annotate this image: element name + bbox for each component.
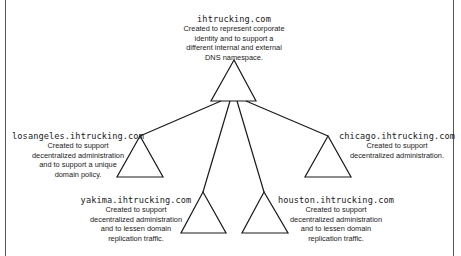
edge-root-yakima: [203, 101, 230, 192]
description-line: Created to support: [278, 205, 394, 215]
chicago-domain-name: chicago.ihtrucking.com: [339, 131, 455, 141]
description-line: replication traffic.: [278, 234, 394, 244]
description-line: identity and to support a: [183, 34, 284, 44]
losangeles-domain-description: Created to support decentralized adminis…: [12, 141, 144, 179]
description-line: decentralized administration: [81, 215, 192, 225]
description-line: replication traffic.: [81, 234, 192, 244]
description-line: Created to support: [12, 141, 144, 151]
diagram-frame: ihtrucking.com Created to represent corp…: [0, 0, 461, 256]
root-domain-description: Created to represent corporate identity …: [183, 24, 284, 62]
losangeles-domain-name: losangeles.ihtrucking.com: [12, 131, 144, 141]
description-line: different internal and external: [183, 43, 284, 53]
houston-domain-name: houston.ihtrucking.com: [278, 195, 394, 205]
description-line: domain policy.: [12, 170, 144, 180]
description-line: Created to represent corporate: [183, 24, 284, 34]
description-line: DNS namespace.: [183, 53, 284, 63]
description-line: Created to support: [339, 141, 455, 151]
edge-root-houston: [237, 101, 264, 192]
edge-root-chicago: [246, 101, 328, 136]
chicago-domain-label: chicago.ihtrucking.com Created to suppor…: [339, 131, 455, 160]
root-domain-label: ihtrucking.com Created to represent corp…: [183, 14, 284, 62]
yakima-domain-label: yakima.ihtrucking.com Created to support…: [81, 195, 192, 243]
chicago-domain-description: Created to support decentralized adminis…: [339, 141, 455, 160]
description-line: decentralized administration.: [339, 151, 455, 161]
houston-domain-label: houston.ihtrucking.com Created to suppor…: [278, 195, 394, 243]
edge-root-losangeles: [140, 101, 221, 136]
houston-domain-description: Created to support decentralized adminis…: [278, 205, 394, 243]
description-line: and to support a unique: [12, 160, 144, 170]
description-line: Created to support: [81, 205, 192, 215]
description-line: and to lessen domain: [81, 224, 192, 234]
yakima-domain-description: Created to support decentralized adminis…: [81, 205, 192, 243]
description-line: decentralized administration: [12, 151, 144, 161]
root-domain-name: ihtrucking.com: [183, 14, 284, 24]
description-line: and to lessen domain: [278, 224, 394, 234]
root-domain-triangle-icon: [211, 60, 256, 101]
description-line: decentralized administration: [278, 215, 394, 225]
yakima-domain-name: yakima.ihtrucking.com: [81, 195, 192, 205]
losangeles-domain-label: losangeles.ihtrucking.com Created to sup…: [12, 131, 144, 179]
